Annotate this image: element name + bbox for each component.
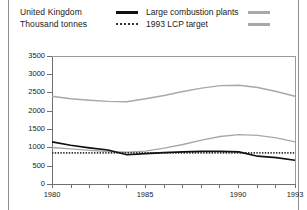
chart-series-canvas [14, 50, 299, 202]
legend-label-1993-lcp-target: 1993 LCP target [146, 18, 208, 30]
chart-legend: Large combustion plants 1993 LCP target [116, 6, 296, 30]
series-line-large-combustion-plants [52, 142, 295, 160]
series-line-upper-gray [52, 85, 295, 101]
chart-title-block: United Kingdom Thousand tonnes [20, 6, 115, 30]
legend-swatch-solid-icon [116, 11, 138, 14]
chart-page: United Kingdom Thousand tonnes Large com… [0, 0, 307, 210]
legend-label-large-combustion-plants: Large combustion plants [146, 6, 239, 18]
chart-country-title: United Kingdom [20, 6, 115, 18]
series-line-lower-gray [52, 135, 295, 153]
frame-left-rule [8, 0, 9, 210]
chart-header: United Kingdom Thousand tonnes Large com… [20, 6, 292, 36]
legend-swatch-gray-upper-icon [248, 11, 270, 14]
legend-swatch-gray-lower-icon [248, 23, 270, 26]
chart-units-label: Thousand tonnes [20, 18, 115, 30]
chart-plot-area: 3500 3000 2500 2000 1500 1000 500 0 1980 [14, 50, 299, 202]
legend-swatch-dotted-icon [116, 23, 138, 25]
